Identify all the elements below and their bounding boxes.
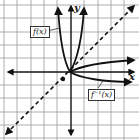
origin-point	[61, 77, 65, 81]
callout-pointer-f-inverse	[98, 81, 103, 88]
curve-f-inverse	[70, 72, 131, 82]
y-axis-label: y	[74, 3, 80, 13]
line-y-equals-x	[6, 6, 134, 134]
label-f: f(x)	[30, 26, 50, 38]
label-f-inverse: f⁻¹(x)	[88, 89, 115, 101]
x-axis-label: x	[129, 72, 135, 82]
coordinate-graph	[0, 0, 139, 140]
